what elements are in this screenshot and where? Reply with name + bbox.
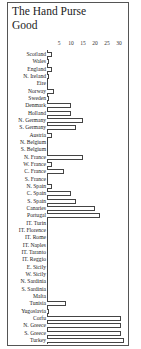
bar	[47, 191, 71, 196]
category-label: Portugal	[27, 212, 46, 219]
category-label: IT. Taranto	[21, 249, 46, 256]
x-tick-label: 15	[80, 40, 86, 46]
category-label: IT. Reggio	[22, 256, 46, 263]
category-label: N. France	[24, 154, 46, 161]
bar	[47, 309, 49, 314]
category-label: W. Sicily	[25, 271, 46, 278]
bar	[47, 206, 95, 211]
category-label: S. Spain	[27, 198, 46, 205]
category-label: C. Spain	[27, 190, 46, 197]
category-label: N. Ireland	[23, 73, 46, 80]
category-label: IT. Turin	[26, 220, 46, 227]
category-label: Holland	[28, 110, 46, 117]
category-label: N. Greece	[23, 322, 46, 329]
chart-subtitle: Good	[12, 18, 86, 32]
bar	[47, 301, 66, 306]
bar	[47, 199, 76, 204]
category-label: IT. Rome	[25, 234, 46, 241]
chart-title: The Hand Purse Good	[12, 4, 86, 32]
bar	[47, 323, 121, 328]
category-label: S. Greece	[24, 330, 46, 337]
category-label: Scotland	[26, 51, 46, 58]
category-label: Eire	[37, 80, 46, 87]
category-label: C. France	[24, 168, 46, 175]
category-label: Wales	[32, 58, 46, 65]
x-tick-label: 25	[104, 40, 110, 46]
category-label: S. Sardinia	[21, 286, 46, 293]
category-label: S. Germany	[19, 124, 46, 131]
category-label: S. France	[25, 176, 46, 183]
bar	[47, 338, 124, 343]
bar	[47, 331, 121, 336]
category-label: N. Belgium	[20, 139, 46, 146]
bar	[47, 162, 52, 167]
bar	[47, 125, 76, 130]
category-label: Denmark	[25, 102, 46, 109]
category-label: N. Spain	[26, 183, 46, 190]
bar	[47, 169, 64, 174]
category-label: N. Sardinia	[21, 278, 46, 285]
category-label: Corfu	[33, 315, 46, 322]
x-tick-label: 20	[92, 40, 98, 46]
y-axis-line	[47, 50, 48, 344]
bar	[47, 184, 52, 189]
x-tick-label: 30	[116, 40, 122, 46]
category-label: N. Germany	[18, 117, 46, 124]
bar	[47, 118, 83, 123]
bar	[47, 67, 52, 72]
category-label: W. France	[23, 161, 46, 168]
category-label: IT. Florence	[19, 227, 46, 234]
category-label: Turkey	[30, 337, 46, 344]
bar	[47, 155, 83, 160]
bar	[47, 89, 54, 94]
bar	[47, 52, 52, 57]
x-tick-label: 10	[68, 40, 74, 46]
category-label: IT. Naples	[23, 242, 46, 249]
chart-title-line1: The Hand Purse	[12, 4, 86, 18]
category-label: Yugoslavia	[21, 308, 46, 315]
category-label: Austria	[30, 132, 46, 139]
bar	[47, 133, 52, 138]
bar	[47, 111, 71, 116]
category-label: Sweden	[28, 95, 46, 102]
category-label: Tunisia	[29, 300, 46, 307]
bar	[47, 74, 49, 79]
category-label: S. Belgium	[21, 146, 46, 153]
bar	[47, 96, 49, 101]
category-label: Norway	[28, 88, 46, 95]
category-label: Canaries	[26, 205, 46, 212]
bar	[47, 59, 49, 64]
category-label: Malta	[33, 293, 46, 300]
category-label: England	[27, 66, 46, 73]
bar	[47, 213, 100, 218]
x-tick-label: 5	[58, 40, 61, 46]
bar	[47, 103, 71, 108]
category-label: E. Sicily	[27, 264, 46, 271]
bar	[47, 316, 121, 321]
